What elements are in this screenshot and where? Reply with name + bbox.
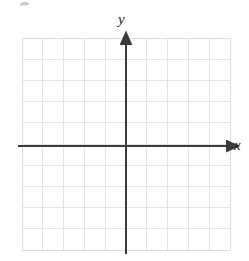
y-axis-label: y bbox=[118, 12, 125, 27]
coordinate-grid-figure: y x bbox=[0, 0, 249, 261]
x-axis-label: x bbox=[234, 138, 241, 153]
coordinate-grid-canvas bbox=[0, 0, 249, 261]
